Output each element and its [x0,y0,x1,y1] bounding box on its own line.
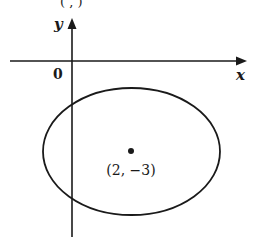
y-axis-label: y [53,15,64,33]
center-point [128,148,134,154]
x-axis-arrow-icon [236,57,247,66]
x-axis [10,57,247,66]
coordinate-plane: ( , ) y x 0 (2, −3) [0,0,253,237]
top-fragment-label: ( , ) [60,0,83,9]
y-axis-arrow-icon [68,18,77,29]
x-axis-label: x [235,66,246,84]
y-axis [68,18,77,237]
origin-label: 0 [53,66,63,82]
center-label: (2, −3) [106,162,155,178]
